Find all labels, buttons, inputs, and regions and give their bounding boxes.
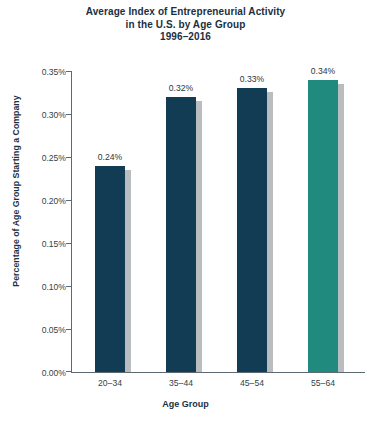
y-tick-label-0.15: 0.15% (26, 240, 66, 249)
x-axis-title: Age Group (0, 399, 371, 409)
plot-area: 0.24% 0.32% 0.33% 0.34% (72, 71, 365, 372)
chart-title-line-2: in the U.S. by Age Group (0, 19, 371, 32)
bar-value-45-54: 0.33% (222, 75, 282, 84)
y-tick-label-0.25: 0.25% (26, 154, 66, 163)
y-tick-0.00 (66, 371, 72, 372)
bar-shadow-45-54 (267, 92, 273, 372)
y-tick-0.05 (66, 329, 72, 330)
x-axis-line (71, 372, 365, 373)
y-tick-label-0.00: 0.00% (26, 369, 66, 378)
y-tick-0.20 (66, 200, 72, 201)
bar-35-44[interactable] (166, 97, 196, 372)
x-tick-label-55-64: 55–64 (293, 378, 353, 388)
bar-value-20-34: 0.24% (80, 153, 140, 162)
bar-shadow-35-44 (196, 101, 202, 372)
x-tick-label-35-44: 35–44 (151, 378, 211, 388)
y-tick-0.25 (66, 157, 72, 158)
y-tick-label-0.20: 0.20% (26, 197, 66, 206)
x-tick-label-20-34: 20–34 (80, 378, 140, 388)
bar-shadow-20-34 (125, 170, 131, 372)
bar-55-64[interactable] (308, 80, 338, 372)
y-tick-label-0.35: 0.35% (26, 68, 66, 77)
y-axis-title: Percentage of Age Group Starting a Compa… (11, 91, 21, 291)
chart-title: Average Index of Entrepreneurial Activit… (0, 6, 371, 44)
y-axis-line (71, 71, 72, 372)
chart-title-line-1: Average Index of Entrepreneurial Activit… (0, 6, 371, 19)
y-tick-label-0.05: 0.05% (26, 326, 66, 335)
bar-shadow-55-64 (338, 84, 344, 372)
bar-value-35-44: 0.32% (151, 84, 211, 93)
bar-20-34[interactable] (95, 166, 125, 372)
y-tick-0.10 (66, 286, 72, 287)
y-tick-label-0.30: 0.30% (26, 111, 66, 120)
y-tick-0.35 (66, 71, 72, 72)
bar-value-55-64: 0.34% (293, 67, 353, 76)
y-tick-0.30 (66, 114, 72, 115)
bar-45-54[interactable] (237, 88, 267, 372)
y-tick-0.15 (66, 243, 72, 244)
chart-title-line-3: 1996–2016 (0, 31, 371, 44)
chart-container: Average Index of Entrepreneurial Activit… (0, 0, 371, 429)
y-tick-label-0.10: 0.10% (26, 283, 66, 292)
x-tick-label-45-54: 45–54 (222, 378, 282, 388)
